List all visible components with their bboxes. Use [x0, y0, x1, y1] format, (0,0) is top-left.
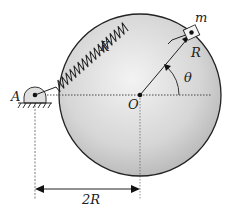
radius-label: R — [190, 45, 201, 60]
spring-label: K — [99, 39, 111, 54]
distance-label: 2R — [81, 192, 100, 207]
angle-label: θ — [184, 70, 192, 85]
center-label: O — [128, 97, 139, 112]
spring-disk-diagram: A O m K R θ 2R — [0, 0, 228, 218]
pivot-label: A — [10, 89, 20, 104]
mass-label: m — [195, 10, 207, 25]
